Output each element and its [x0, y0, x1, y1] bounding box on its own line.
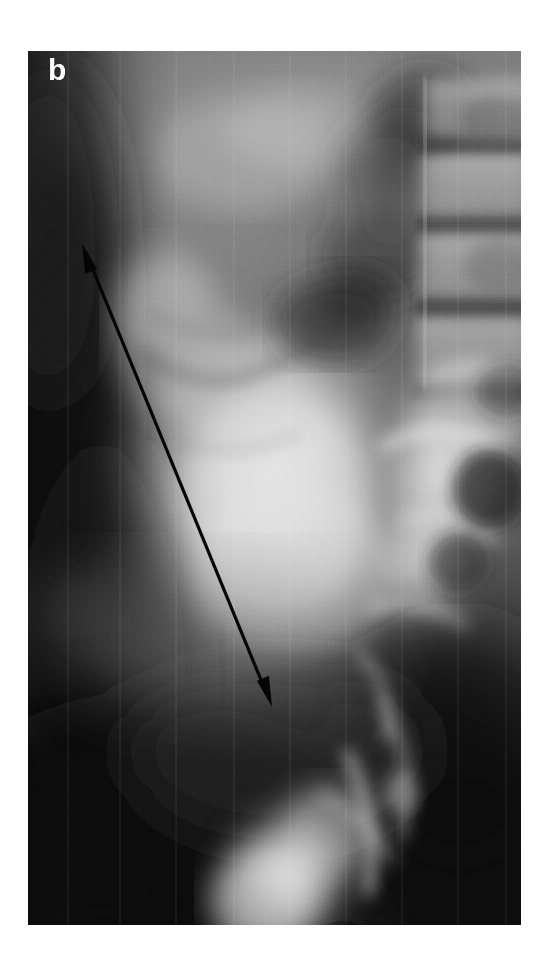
- disc-space-3: [414, 299, 521, 315]
- disc-space-2: [416, 217, 521, 232]
- figure-root: b: [0, 0, 553, 964]
- radiograph-image: b: [28, 51, 521, 925]
- lumbar-vertebral-column: [412, 77, 521, 401]
- panel-label-b: b: [48, 55, 66, 85]
- radiograph-canvas: [28, 51, 521, 925]
